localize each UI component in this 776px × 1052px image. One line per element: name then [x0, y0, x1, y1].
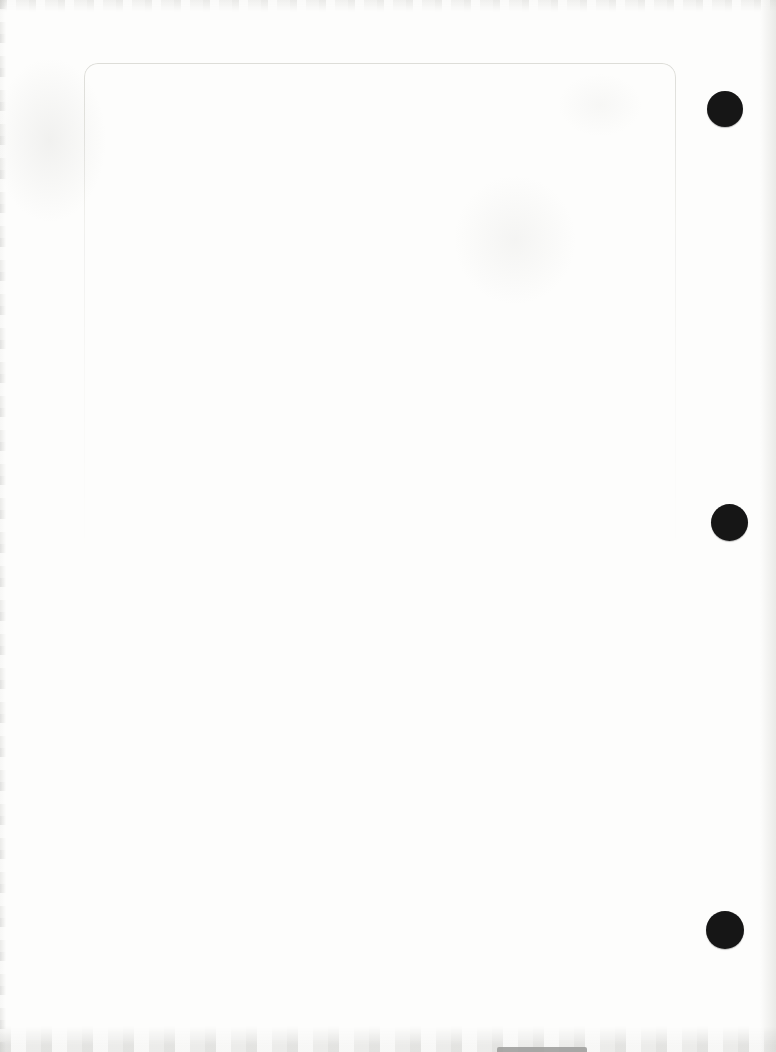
scanned-page: [0, 0, 776, 1052]
punch-hole-middle: [711, 504, 748, 541]
scan-edge-bottom: [0, 1026, 776, 1052]
scan-bottom-smear: [497, 1047, 587, 1052]
scan-edge-right: [760, 0, 776, 1052]
scan-edge-top: [0, 0, 776, 12]
punch-hole-top: [707, 91, 743, 127]
sheet-outline: [84, 63, 676, 964]
punch-hole-bottom: [706, 911, 744, 949]
scan-edge-left: [0, 0, 6, 1052]
